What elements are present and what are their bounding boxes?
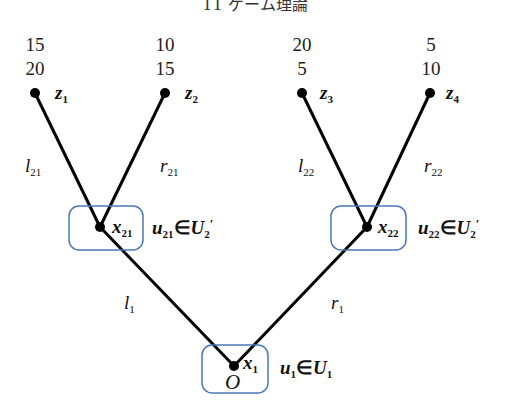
payoff-z1-bottom: 20 [15, 58, 55, 80]
label-edge-r22: r22 [424, 155, 442, 178]
label-edge-r1: r1 [331, 292, 344, 315]
node-x21 [95, 222, 105, 232]
payoff-z2-bottom: 15 [145, 58, 185, 80]
label-edge-l1: l1 [124, 292, 135, 315]
nodes [30, 88, 435, 371]
edge-l21 [35, 93, 100, 227]
label-x21: x21 [112, 216, 133, 239]
payoff-z3-top: 20 [282, 34, 322, 56]
label-u22-set: u22∈U2′ [418, 216, 479, 240]
label-u1-set: u1∈U1 [280, 356, 332, 380]
label-edge-l22: l22 [298, 155, 314, 178]
payoff-z4-bottom: 10 [411, 58, 451, 80]
label-edge-l21: l21 [25, 155, 41, 178]
label-x22: x22 [378, 216, 399, 239]
label-z2: z2 [185, 82, 198, 105]
label-edge-r21: r21 [160, 155, 178, 178]
label-u21-set: u21∈U2′ [152, 216, 213, 240]
label-z4: z4 [446, 82, 459, 105]
edge-r21 [100, 93, 165, 227]
payoff-z3-bottom: 5 [282, 58, 322, 80]
payoff-z1-top: 15 [15, 34, 55, 56]
label-z1: z1 [55, 82, 68, 105]
label-origin: O [225, 370, 240, 395]
node-z3 [297, 88, 307, 98]
payoff-z4-top: 5 [411, 34, 451, 56]
node-x22 [362, 222, 372, 232]
label-x1: x1 [243, 352, 258, 375]
node-z1 [30, 88, 40, 98]
node-z2 [160, 88, 170, 98]
payoff-z2-top: 10 [145, 34, 185, 56]
label-z3: z3 [320, 82, 333, 105]
node-z4 [425, 88, 435, 98]
